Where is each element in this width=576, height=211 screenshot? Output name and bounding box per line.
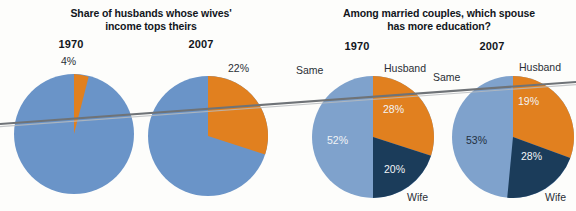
panel-title-education: Among married couples, which spouse has … — [314, 7, 564, 32]
panel-title-education-line2: has more education? — [314, 20, 564, 33]
year-label-education-1970: 1970 — [327, 40, 387, 52]
category-label-education-2007-same: Same — [433, 71, 460, 83]
category-label-education-1970-husband: Husband — [384, 62, 426, 74]
value-label-income-1970: 4% — [61, 55, 76, 67]
year-label-education-2007: 2007 — [462, 40, 522, 52]
infographic-figure: Share of husbands whose wives' income to… — [0, 0, 576, 211]
value-label-education-2007-husband: 19% — [518, 95, 539, 107]
category-label-education-2007-husband: Husband — [519, 61, 561, 73]
pie-chart-income-1970 — [13, 73, 135, 195]
category-label-education-1970-same: Same — [296, 64, 323, 76]
value-label-education-1970-wife: 20% — [384, 163, 405, 175]
category-label-education-1970-wife: Wife — [407, 191, 428, 203]
panel-title-education-line1: Among married couples, which spouse — [314, 7, 564, 20]
panel-title-income: Share of husbands whose wives' income to… — [28, 7, 274, 32]
year-label-income-1970: 1970 — [41, 38, 101, 50]
year-label-income-2007: 2007 — [171, 38, 231, 50]
value-label-education-2007-wife: 28% — [521, 150, 542, 162]
panel-title-income-line1: Share of husbands whose wives' — [28, 7, 274, 20]
value-label-income-2007: 22% — [228, 62, 249, 74]
value-label-education-2007-same: 53% — [466, 134, 487, 146]
panel-title-income-line2: income tops theirs — [28, 20, 274, 33]
value-label-education-1970-husband: 28% — [383, 103, 404, 115]
pie-chart-income-2007 — [147, 75, 269, 197]
category-label-education-2007-wife: Wife — [545, 191, 566, 203]
value-label-education-1970-same: 52% — [327, 134, 348, 146]
